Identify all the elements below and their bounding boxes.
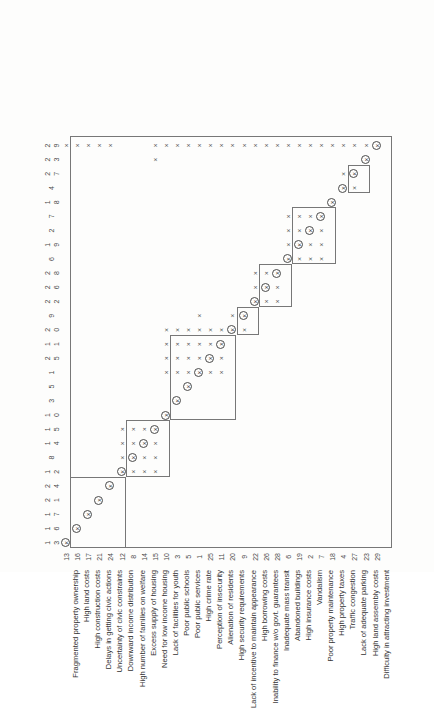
matrix-cell[interactable] (261, 451, 272, 465)
matrix-cell[interactable] (227, 153, 238, 167)
matrix-cell[interactable] (61, 451, 72, 465)
matrix-cell[interactable] (294, 422, 305, 436)
matrix-cell[interactable] (72, 252, 83, 266)
matrix-cell[interactable] (150, 536, 161, 550)
matrix-cell[interactable] (205, 436, 216, 450)
matrix-cell[interactable] (128, 337, 139, 351)
matrix-cell[interactable] (205, 394, 216, 408)
matrix-cell[interactable] (305, 436, 316, 450)
matrix-cell[interactable]: × (183, 365, 194, 379)
matrix-cell[interactable] (361, 408, 372, 422)
matrix-cell[interactable] (372, 493, 383, 507)
matrix-cell[interactable]: × (361, 138, 372, 152)
matrix-cell[interactable] (327, 252, 338, 266)
matrix-cell[interactable] (239, 465, 250, 479)
matrix-cell[interactable] (361, 309, 372, 323)
matrix-cell[interactable] (250, 493, 261, 507)
matrix-cell[interactable] (205, 536, 216, 550)
matrix-cell[interactable] (72, 167, 83, 181)
matrix-cell[interactable] (361, 195, 372, 209)
matrix-cell[interactable] (327, 209, 338, 223)
matrix-cell[interactable] (338, 479, 349, 493)
matrix-cell[interactable] (61, 294, 72, 308)
matrix-cell[interactable] (372, 323, 383, 337)
matrix-cell[interactable]: × (150, 153, 161, 167)
matrix-cell[interactable] (294, 465, 305, 479)
matrix-cell[interactable] (205, 380, 216, 394)
matrix-cell[interactable] (372, 351, 383, 365)
matrix-cell[interactable] (250, 181, 261, 195)
matrix-cell[interactable] (227, 451, 238, 465)
matrix-cell[interactable] (261, 153, 272, 167)
matrix-cell[interactable] (72, 479, 83, 493)
matrix-cell[interactable] (205, 209, 216, 223)
matrix-cell[interactable] (327, 422, 338, 436)
matrix-cell[interactable] (239, 280, 250, 294)
matrix-cell[interactable] (194, 536, 205, 550)
matrix-cell[interactable] (161, 195, 172, 209)
matrix-cell[interactable] (72, 394, 83, 408)
matrix-cell[interactable] (116, 408, 127, 422)
matrix-cell[interactable] (261, 479, 272, 493)
matrix-cell[interactable] (227, 422, 238, 436)
matrix-cell[interactable] (183, 238, 194, 252)
matrix-cell[interactable] (116, 309, 127, 323)
matrix-cell[interactable] (272, 451, 283, 465)
matrix-cell[interactable]: × (294, 252, 305, 266)
matrix-cell[interactable] (72, 294, 83, 308)
matrix-cell[interactable] (338, 280, 349, 294)
matrix-cell[interactable]: × (227, 138, 238, 152)
matrix-cell[interactable] (83, 309, 94, 323)
matrix-cell[interactable] (183, 252, 194, 266)
matrix-cell[interactable] (272, 181, 283, 195)
matrix-cell[interactable] (61, 252, 72, 266)
matrix-cell[interactable]: × (139, 451, 150, 465)
matrix-cell[interactable] (161, 181, 172, 195)
matrix-cell[interactable] (139, 507, 150, 521)
matrix-cell[interactable] (172, 209, 183, 223)
matrix-cell[interactable] (61, 394, 72, 408)
matrix-cell[interactable] (327, 224, 338, 238)
matrix-cell[interactable] (194, 209, 205, 223)
matrix-cell[interactable] (361, 451, 372, 465)
matrix-cell[interactable] (161, 294, 172, 308)
matrix-cell[interactable]: × (194, 351, 205, 365)
matrix-cell[interactable] (372, 408, 383, 422)
matrix-cell[interactable] (172, 309, 183, 323)
matrix-cell[interactable] (194, 224, 205, 238)
matrix-cell[interactable] (105, 195, 116, 209)
matrix-cell[interactable] (61, 323, 72, 337)
matrix-cell[interactable] (349, 280, 360, 294)
matrix-cell[interactable] (128, 365, 139, 379)
matrix-cell[interactable] (161, 209, 172, 223)
matrix-cell[interactable] (227, 238, 238, 252)
matrix-cell[interactable] (83, 337, 94, 351)
matrix-cell[interactable] (205, 167, 216, 181)
matrix-cell[interactable] (72, 351, 83, 365)
matrix-cell[interactable] (316, 380, 327, 394)
matrix-cell[interactable] (305, 479, 316, 493)
matrix-cell[interactable] (172, 451, 183, 465)
matrix-cell[interactable] (116, 479, 127, 493)
matrix-cell[interactable] (105, 465, 116, 479)
matrix-cell[interactable] (239, 536, 250, 550)
matrix-cell[interactable] (239, 422, 250, 436)
matrix-cell[interactable] (183, 422, 194, 436)
matrix-cell[interactable] (139, 536, 150, 550)
matrix-cell[interactable] (61, 351, 72, 365)
matrix-cell[interactable] (272, 422, 283, 436)
matrix-cell[interactable] (116, 209, 127, 223)
matrix-cell[interactable] (227, 536, 238, 550)
matrix-cell[interactable] (349, 365, 360, 379)
matrix-cell[interactable] (94, 351, 105, 365)
matrix-cell[interactable] (283, 323, 294, 337)
matrix-cell[interactable] (250, 351, 261, 365)
matrix-cell[interactable] (105, 238, 116, 252)
matrix-cell[interactable] (83, 408, 94, 422)
matrix-cell[interactable] (161, 167, 172, 181)
matrix-cell[interactable]: × (72, 521, 83, 535)
matrix-cell[interactable] (272, 365, 283, 379)
matrix-cell[interactable] (150, 238, 161, 252)
matrix-cell[interactable]: × (250, 138, 261, 152)
matrix-cell[interactable] (261, 394, 272, 408)
